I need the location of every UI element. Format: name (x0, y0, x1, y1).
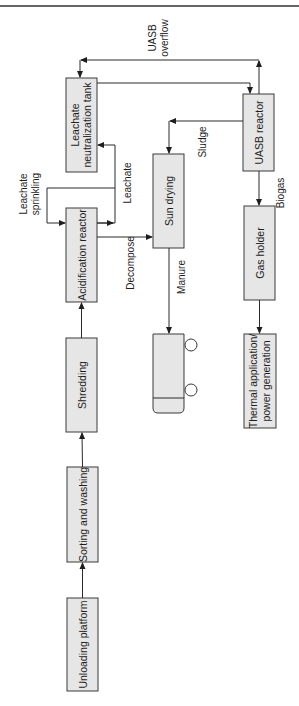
node-uasb-reactor: UASB reactor (243, 94, 274, 171)
node-label: Shredding (76, 361, 88, 409)
node-label: Gas holder (254, 227, 266, 279)
edge-sorting-to-shredding (82, 433, 83, 467)
edge-label-decompose: Decompose (125, 236, 136, 290)
node-sun-drying: Sun drying (153, 154, 184, 248)
node-label-line1: Thermal application/ (247, 334, 259, 429)
node-label-line1: Leachate (69, 103, 81, 146)
edge-label-uasb-overflow-line1: UASB (147, 24, 158, 52)
node-label: Sun drying (163, 176, 175, 226)
edge-tank-to-uasb (97, 83, 250, 93)
process-flow-diagram: Unloading platform Sorting and washing S… (0, 0, 299, 706)
node-sorting-washing: Sorting and washing (67, 467, 98, 562)
node-label-line2: power generation (260, 340, 272, 421)
node-label: Acidification reactor (76, 209, 88, 301)
node-thermal-power-generation: Thermal application/ power generation (244, 334, 276, 429)
edge-label-leachate: Leachate (122, 162, 133, 204)
node-shredding: Shredding (66, 338, 97, 432)
node-gas-holder: Gas holder (244, 206, 275, 300)
node-leachate-neutralization-tank: Leachate neutralization tank (66, 78, 97, 172)
edge-label-leachate-sprinkling-line1: Leachate (18, 173, 29, 215)
edge-label-uasb-overflow-line2: overflow (159, 19, 170, 57)
node-label: Unloading platform (77, 600, 89, 688)
edge-label-leachate-sprinkling-line2: sprinkling (30, 173, 41, 215)
node-label-line2: neutralization tank (81, 82, 93, 168)
edge-label-sludge: Sludge (197, 126, 208, 158)
edge-label-biogas: Biogas (275, 178, 286, 209)
node-label: UASB reactor (253, 100, 265, 165)
edge-label-manure: Manure (176, 260, 187, 294)
node-acidification-reactor: Acidification reactor (66, 208, 97, 302)
edge-leachate (97, 145, 115, 223)
node-unloading-platform: Unloading platform (67, 598, 98, 691)
node-label: Sorting and washing (77, 467, 89, 562)
truck-icon (153, 334, 197, 413)
